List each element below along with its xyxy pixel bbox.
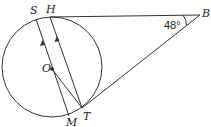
label-t: T <box>83 110 92 123</box>
angle-value-b: 48° <box>164 19 181 31</box>
label-b: B <box>201 7 210 20</box>
label-h: H <box>45 3 56 16</box>
label-s: S <box>30 4 38 17</box>
label-o: O <box>42 62 51 75</box>
label-m: M <box>65 116 78 127</box>
tangent-tb <box>82 15 200 108</box>
geometry-diagram: S H B O T M 48° <box>0 0 211 127</box>
angle-arc-b-icon <box>183 15 187 25</box>
tangent-hb <box>50 15 200 17</box>
chord-ht <box>50 17 82 108</box>
parallel-arrow-ht-icon <box>55 36 60 42</box>
segment-ot <box>52 69 82 108</box>
